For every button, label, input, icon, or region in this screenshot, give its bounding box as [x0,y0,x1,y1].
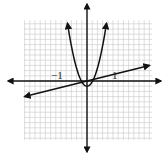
graph: −1 1 [0,0,163,156]
tick-label-one: 1 [112,69,118,81]
tick-label-neg-one: −1 [51,69,63,81]
